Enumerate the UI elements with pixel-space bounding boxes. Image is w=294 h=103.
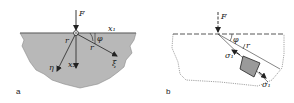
figure: F x₁ x₂ ξ η r r φ a F bbox=[0, 0, 294, 103]
stress-label-outer: σ₁ bbox=[262, 80, 271, 89]
force-label: F bbox=[78, 9, 85, 18]
axis-xi-label: ξ bbox=[112, 59, 117, 68]
stress-element bbox=[240, 56, 260, 77]
angle-arc bbox=[230, 34, 232, 41]
radius-label: r bbox=[246, 41, 251, 50]
panel-b-label: b bbox=[166, 87, 171, 96]
half-plane-body bbox=[20, 33, 136, 88]
panel-a-label: a bbox=[16, 87, 21, 96]
panel-b: F σ₁ σ₁ φ r b bbox=[166, 12, 284, 96]
axis-eta-label: η bbox=[49, 63, 54, 72]
stress-label-inner: σ₁ bbox=[225, 51, 234, 60]
angle-label: φ bbox=[97, 34, 103, 43]
axis-x1-label: x₁ bbox=[108, 24, 116, 33]
panel-a: F x₁ x₂ ξ η r r φ a bbox=[16, 9, 136, 96]
axis-x2-label: x₂ bbox=[68, 60, 76, 69]
radius-tick bbox=[243, 44, 245, 49]
force-label: F bbox=[220, 12, 227, 21]
angle-label: φ bbox=[233, 35, 239, 44]
half-plane-outline bbox=[172, 34, 284, 86]
